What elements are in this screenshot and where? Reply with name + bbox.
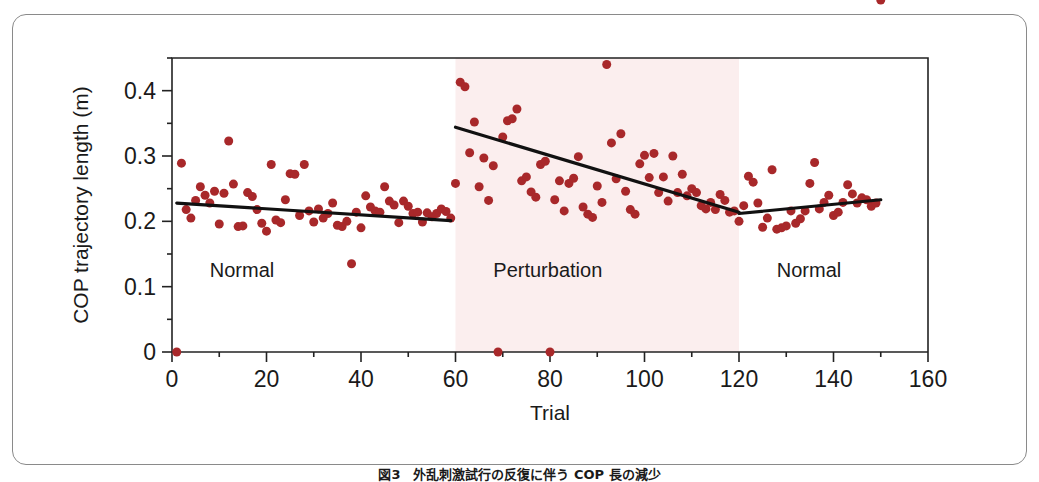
data-point (413, 208, 422, 217)
data-point (555, 176, 564, 185)
region-label: Normal (777, 259, 841, 281)
x-axis-title: Trial (530, 401, 570, 424)
data-point (172, 348, 181, 357)
data-point (763, 214, 772, 223)
x-axis-tick-label: 40 (348, 366, 374, 392)
data-point (720, 196, 729, 205)
data-point (735, 217, 744, 226)
data-point (753, 199, 762, 208)
data-point (229, 180, 238, 189)
data-point (522, 172, 531, 181)
data-point (546, 348, 555, 357)
data-point (621, 187, 630, 196)
data-point (631, 210, 640, 219)
x-axis-tick-label: 80 (537, 366, 563, 392)
data-point (465, 148, 474, 157)
data-point (768, 165, 777, 174)
data-point (758, 223, 767, 232)
data-point (649, 149, 658, 158)
data-point (494, 348, 503, 357)
data-point (489, 161, 498, 170)
y-axis-tick-label: 0.1 (124, 274, 156, 300)
data-point (876, 0, 885, 5)
data-point (607, 138, 616, 147)
data-point (645, 173, 654, 182)
data-point (640, 151, 649, 160)
data-point (512, 104, 521, 113)
data-point (257, 219, 266, 228)
data-point (824, 191, 833, 200)
data-point (451, 179, 460, 188)
data-point (692, 188, 701, 197)
cop-trajectory-scatter-chart: 02040608010012014016000.10.20.30.4TrialC… (0, 0, 1039, 482)
data-point (347, 259, 356, 268)
x-axis-tick-label: 120 (720, 366, 758, 392)
y-axis-tick-label: 0.3 (124, 143, 156, 169)
data-point (186, 214, 195, 223)
data-point (834, 208, 843, 217)
data-point (739, 201, 748, 210)
x-axis-tick-label: 160 (909, 366, 947, 392)
x-axis-tick-label: 140 (814, 366, 852, 392)
y-axis-tick-label: 0.2 (124, 208, 156, 234)
data-point (357, 223, 366, 232)
data-point (394, 218, 403, 227)
y-axis-title: COP trajectory length (m) (69, 86, 92, 324)
data-point (531, 193, 540, 202)
data-point (238, 221, 247, 230)
data-point (805, 179, 814, 188)
data-point (782, 221, 791, 230)
data-point (290, 170, 299, 179)
figure-caption: 図3 外乱刺激試行の反復に伴う COP 長の減少 (378, 466, 660, 482)
data-point (550, 195, 559, 204)
data-point (635, 159, 644, 168)
region-label: Perturbation (493, 259, 602, 281)
data-point (749, 178, 758, 187)
data-point (182, 205, 191, 214)
data-point (196, 182, 205, 191)
x-axis-tick-label: 100 (625, 366, 663, 392)
perturbation-shaded-region (456, 58, 740, 352)
data-point (248, 192, 257, 201)
data-point (380, 182, 389, 191)
data-point (342, 217, 351, 226)
data-point (616, 129, 625, 138)
data-point (267, 160, 276, 169)
data-point (262, 227, 271, 236)
data-point (470, 118, 479, 127)
data-point (475, 182, 484, 191)
data-point (224, 136, 233, 145)
region-label: Normal (210, 259, 274, 281)
data-point (588, 213, 597, 222)
data-point (560, 206, 569, 215)
x-axis-tick-label: 20 (254, 366, 280, 392)
data-point (593, 182, 602, 191)
data-point (309, 217, 318, 226)
data-point (281, 195, 290, 204)
data-point (219, 189, 228, 198)
data-point (215, 219, 224, 228)
data-point (678, 170, 687, 179)
y-axis-tick-label: 0 (143, 339, 156, 365)
data-point (328, 199, 337, 208)
data-point (659, 172, 668, 181)
data-point (201, 191, 210, 200)
data-point (541, 157, 550, 166)
x-axis-tick-label: 60 (443, 366, 469, 392)
data-point (210, 187, 219, 196)
data-point (300, 160, 309, 169)
y-axis-tick-label: 0.4 (124, 78, 156, 104)
data-point (574, 152, 583, 161)
data-point (664, 197, 673, 206)
data-point (569, 174, 578, 183)
data-point (602, 60, 611, 69)
data-point (810, 158, 819, 167)
data-point (177, 159, 186, 168)
figure-caption-strip: 図3 外乱刺激試行の反復に伴う COP 長の減少 (12, 466, 1027, 482)
data-point (460, 82, 469, 91)
data-point (479, 153, 488, 162)
data-point (484, 196, 493, 205)
data-point (361, 191, 370, 200)
data-point (276, 218, 285, 227)
data-point (668, 152, 677, 161)
